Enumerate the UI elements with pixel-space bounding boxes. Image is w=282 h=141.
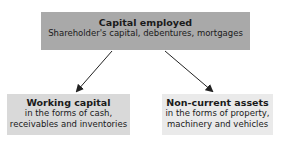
arrow-to-working-capital	[77, 51, 112, 91]
arrow-to-non-current-assets	[165, 51, 212, 91]
non-current-assets-line-2: machinery and vehicles	[162, 119, 273, 129]
non-current-assets-line-1: in the forms of property,	[162, 108, 273, 118]
working-capital-line-1: in the forms of cash,	[7, 108, 130, 118]
non-current-assets-title: Non-current assets	[162, 97, 273, 108]
working-capital-title: Working capital	[7, 97, 130, 108]
capital-employed-box: Capital employed Shareholder's capital, …	[41, 12, 250, 50]
working-capital-box: Working capital in the forms of cash, re…	[7, 94, 130, 135]
capital-employed-subtitle: Shareholder's capital, debentures, mortg…	[41, 28, 250, 38]
working-capital-line-2: receivables and inventories	[7, 119, 130, 129]
non-current-assets-box: Non-current assets in the forms of prope…	[162, 94, 273, 135]
capital-employed-title: Capital employed	[41, 17, 250, 28]
